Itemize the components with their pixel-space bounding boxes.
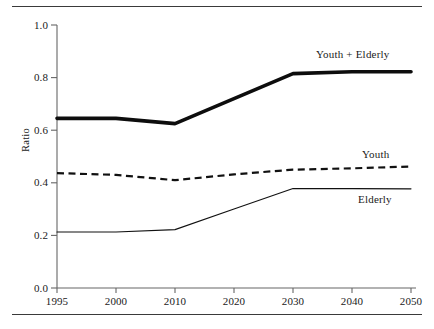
figure-container: Ratio 0.0 0.2 0.4 0.6 0.8 1.0 1995 2000 … [0,0,434,329]
series-line-youth [57,166,411,180]
series-line-elderly [57,189,411,232]
series-line-youth-elderly [57,72,411,124]
x-axis-ticks [57,288,411,293]
y-axis-ticks [51,25,57,288]
chart-plot-area [0,0,434,329]
